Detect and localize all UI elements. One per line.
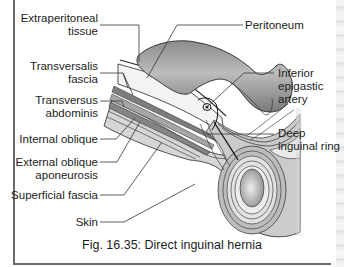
label-line: aponeurosis xyxy=(6,169,98,182)
label-line: tissue xyxy=(6,25,98,38)
label-line: Skin xyxy=(6,216,98,229)
label-line: Extraperitoneal xyxy=(6,12,98,25)
hernia-sac xyxy=(137,41,292,115)
label-line: Peritoneum xyxy=(245,19,335,32)
label-skin: Skin xyxy=(6,216,98,229)
label-line: Transversalis xyxy=(6,60,98,73)
label-line: Transversus xyxy=(6,94,98,107)
label-peritoneum: Peritoneum xyxy=(245,19,335,32)
label-internal-oblique: Internal oblique xyxy=(6,133,98,146)
label-transversus-abdominis: Transversus abdominis xyxy=(6,94,98,120)
label-inferior-epigastic-artery: Inferior epigastic artery xyxy=(278,67,338,106)
label-line: inguinal ring xyxy=(278,140,344,153)
label-line: Internal oblique xyxy=(6,133,98,146)
label-line: abdominis xyxy=(6,107,98,120)
label-transversalis-fascia: Transversalis fascia xyxy=(6,60,98,86)
figure-caption: Fig. 16.35: Direct inguinal hernia xyxy=(0,238,344,252)
label-line: Superficial fascia xyxy=(6,189,98,202)
label-external-oblique-aponeurosis: External oblique aponeurosis xyxy=(6,156,98,182)
label-deep-inguinal-ring: Deep inguinal ring xyxy=(278,127,344,153)
label-line: artery xyxy=(278,93,338,106)
label-line: fascia xyxy=(6,73,98,86)
label-line: Inferior xyxy=(278,67,338,80)
label-line: epigastic xyxy=(278,80,338,93)
label-line: External oblique xyxy=(6,156,98,169)
label-superficial-fascia: Superficial fascia xyxy=(6,189,98,202)
label-line: Deep xyxy=(278,127,344,140)
label-extraperitoneal-tissue: Extraperitoneal tissue xyxy=(6,12,98,38)
